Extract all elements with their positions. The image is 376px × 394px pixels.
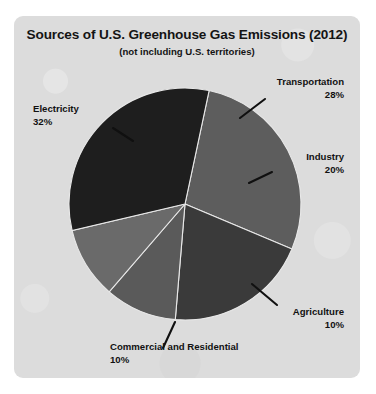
pie-label-transportation-name: Transportation xyxy=(277,76,344,87)
pie-label-industry-name: Industry xyxy=(306,151,344,162)
pie-label-electricity-pct: 32% xyxy=(33,116,125,129)
pie-label-agriculture-pct: 10% xyxy=(270,319,344,332)
pie-chart xyxy=(0,0,376,394)
pie-label-electricity-name: Electricity xyxy=(33,103,79,114)
pie-label-agriculture-name: Agriculture xyxy=(293,306,344,317)
pie-label-electricity: Electricity 32% xyxy=(33,103,125,128)
pie-label-commercial-and-residential-name: Commercial and Residential xyxy=(110,341,239,352)
pie-label-commercial-and-residential-pct: 10% xyxy=(110,354,290,367)
chart-figure: Sources of U.S. Greenhouse Gas Emissions… xyxy=(0,0,376,394)
pie-label-transportation-pct: 28% xyxy=(252,89,344,102)
pie-label-industry: Industry 20% xyxy=(246,151,344,176)
pie-label-commercial-and-residential: Commercial and Residential 10% xyxy=(110,341,290,366)
pie-label-transportation: Transportation 28% xyxy=(252,76,344,101)
pie-label-agriculture: Agriculture 10% xyxy=(270,306,344,331)
pie-label-industry-pct: 20% xyxy=(246,164,344,177)
